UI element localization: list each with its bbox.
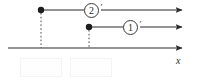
ray-2-prime-mark: ′ xyxy=(100,3,102,12)
tick-label-box-right[interactable] xyxy=(70,58,112,77)
ray-1-circled-label: 1 xyxy=(123,20,138,35)
x-axis-label: x xyxy=(176,56,180,66)
ray-2-origin-dot xyxy=(38,7,44,13)
ray-diagram-figure: 2 ′ 1 ′ x xyxy=(0,0,204,83)
ray-2-circled-label: 2 xyxy=(84,3,99,18)
ray-1-origin-dot xyxy=(86,24,92,30)
ray-1-prime-mark: ′ xyxy=(139,20,141,29)
tick-label-box-left[interactable] xyxy=(20,58,62,77)
